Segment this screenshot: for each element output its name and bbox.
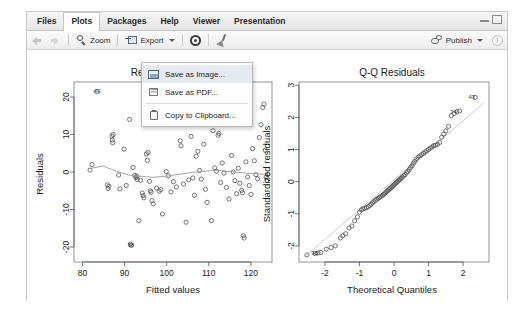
x-tick-label: 80 [78, 268, 88, 278]
data-point [329, 245, 333, 249]
minimize-icon[interactable] [480, 15, 489, 24]
data-point [174, 185, 178, 189]
tab-viewer[interactable]: Viewer [186, 12, 227, 30]
maximize-icon[interactable] [492, 15, 502, 24]
menu-item-save-as-image[interactable]: Save as Image... [142, 65, 252, 83]
data-point [164, 170, 168, 174]
data-point [229, 153, 233, 157]
menu-item-label: Save as Image... [165, 70, 225, 79]
y-tick-label: -10 [61, 203, 71, 216]
data-point [205, 200, 209, 204]
y-tick-label: 1 [286, 147, 296, 152]
gear-icon [190, 35, 201, 46]
magnifier-icon [76, 35, 87, 46]
tab-presentation[interactable]: Presentation [227, 12, 293, 30]
data-point [178, 139, 182, 143]
pane-frame: Files Plots Packages Help Viewer Present… [26, 11, 508, 301]
data-point [169, 190, 173, 194]
data-point [186, 178, 190, 182]
data-point [194, 154, 198, 158]
export-icon [125, 35, 137, 45]
data-point [199, 177, 203, 181]
loess-smooth-line [89, 166, 268, 177]
point-label: 98 [311, 250, 318, 256]
data-point [249, 192, 253, 196]
data-point [124, 183, 128, 187]
chevron-down-icon [169, 39, 175, 42]
y-tick-label: 0 [61, 169, 71, 174]
data-point [355, 215, 359, 219]
publish-button[interactable]: Publish [427, 32, 487, 49]
menu-item-label: Save as PDF... [165, 88, 218, 97]
zoom-button[interactable]: Zoom [72, 32, 114, 49]
data-point [233, 179, 237, 183]
toolbar-divider-2 [117, 34, 118, 46]
plots-svg: Residuals vs Fitted 8090100110120 -20-10… [27, 50, 507, 301]
tab-bar: Files Plots Packages Help Viewer Present… [27, 12, 507, 31]
data-point [117, 173, 121, 177]
data-point [247, 183, 251, 187]
data-point [256, 177, 260, 181]
y-tick-label: -2 [286, 242, 296, 250]
tab-plots[interactable]: Plots [63, 12, 100, 31]
data-point [209, 219, 213, 223]
window-controls [480, 15, 502, 24]
point-label: 43 [468, 94, 475, 100]
x-tick-label: -2 [321, 268, 329, 278]
remove-plot-button[interactable] [186, 32, 205, 49]
data-point [118, 187, 122, 191]
refresh-icon[interactable] [492, 35, 503, 46]
export-label: Export [140, 36, 163, 45]
data-point [192, 193, 196, 197]
menu-item-copy-to-clipboard[interactable]: Copy to Clipboard... [142, 106, 252, 124]
x-axis-label-qq: Theoretical Quantiles [347, 284, 437, 295]
y-axis-residuals: -20-1001020 [61, 92, 74, 253]
menu-divider [146, 103, 248, 104]
data-point [224, 185, 228, 189]
tab-packages[interactable]: Packages [100, 12, 153, 30]
data-point [236, 166, 240, 170]
menu-item-save-as-pdf[interactable]: Save as PDF... [142, 83, 252, 101]
chart-qq-residuals: Q-Q Residuals -2-1012 -2-10123 437498 Th… [261, 67, 489, 295]
y-axis-label-qq: Standardized residuals [261, 125, 272, 222]
clipboard-icon [148, 110, 159, 120]
data-point [149, 190, 153, 194]
toolbar-divider-4 [208, 34, 209, 46]
data-point [145, 158, 149, 162]
back-arrow-icon [31, 35, 42, 46]
clear-plots-button[interactable] [212, 32, 232, 49]
data-point [458, 109, 462, 113]
y-tick-label: 2 [286, 115, 296, 120]
data-point [444, 129, 448, 133]
forward-arrow-icon [50, 35, 61, 46]
qq-reference-line [304, 103, 484, 257]
data-point [252, 159, 256, 163]
tab-help[interactable]: Help [153, 12, 185, 30]
y-axis-qq: -2-10123 [286, 83, 299, 250]
x-tick-label: 120 [244, 268, 258, 278]
data-point [446, 124, 450, 128]
data-points-qq [305, 95, 477, 257]
y-tick-label: -1 [286, 210, 296, 218]
back-button[interactable] [27, 32, 46, 49]
y-tick-label: 3 [286, 83, 296, 88]
data-point [254, 173, 258, 177]
menu-item-label: Copy to Clipboard... [165, 111, 236, 120]
publish-icon [431, 35, 443, 46]
data-point [235, 192, 239, 196]
data-point [90, 162, 94, 166]
data-point [122, 147, 126, 151]
export-button[interactable]: Export [121, 32, 178, 49]
toolbar-divider-1 [68, 34, 69, 46]
x-tick-label: 0 [392, 268, 397, 278]
x-axis-qq: -2-1012 [321, 262, 466, 278]
data-point [245, 175, 249, 179]
tab-files[interactable]: Files [30, 12, 63, 30]
pdf-icon [148, 87, 159, 97]
data-point [131, 165, 135, 169]
data-point [238, 181, 242, 185]
data-point [196, 149, 200, 153]
data-point [319, 250, 323, 254]
forward-button[interactable] [46, 32, 65, 49]
data-point [202, 142, 206, 146]
